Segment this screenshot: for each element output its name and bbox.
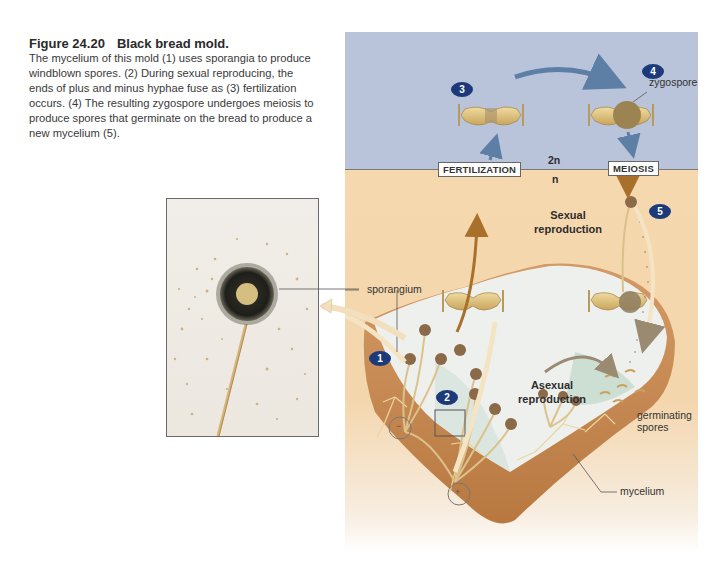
sporangium-label: sporangium <box>367 283 422 295</box>
germinating-label-line1: germinating <box>637 409 692 421</box>
sporangium-micrograph <box>166 198 319 437</box>
fertilization-label: FERTILIZATION <box>438 162 521 177</box>
germinating-spores-label: germinating spores <box>637 409 692 433</box>
sexual-label-line2: reproduction <box>533 222 603 236</box>
zygospore-art <box>589 92 653 129</box>
step-badge-3: 3 <box>451 82 473 97</box>
fertilization-to-zygospore-arrow <box>515 70 613 82</box>
photo-arrow-head <box>320 299 332 313</box>
zygospore-down-arrow <box>628 132 632 150</box>
sexual-reproduction-label: Sexual reproduction <box>533 208 603 236</box>
figure-heading: Figure 24.20Black bread mold. <box>29 36 319 51</box>
plus-strain-sign: + <box>455 487 460 497</box>
minus-strain-sign: − <box>396 421 401 431</box>
germinating-label-line2: spores <box>637 421 692 433</box>
fertilization-up-arrow <box>490 142 495 160</box>
meiosis-label: MEIOSIS <box>608 161 659 176</box>
zygospore-label: zygospore <box>649 76 697 88</box>
fertilization-gametangia <box>459 104 523 126</box>
step-badge-2: 2 <box>436 390 458 405</box>
figure-number: Figure 24.20 <box>29 36 105 51</box>
asexual-label-line1: Asexual <box>512 378 592 392</box>
step-badge-5: 5 <box>649 204 671 219</box>
diploid-label: 2n <box>548 153 560 167</box>
sexual-label-line1: Sexual <box>533 208 603 222</box>
life-cycle-diagram: 3 4 5 1 2 zygospore FERTILIZATION MEIOSI… <box>345 32 698 552</box>
asexual-label-line2: reproduction <box>512 392 592 406</box>
figure-title: Black bread mold. <box>117 36 229 51</box>
haploid-label: n <box>552 172 558 186</box>
sporangium-photo-illustration <box>167 199 318 436</box>
step-badge-1: 1 <box>369 351 391 366</box>
figure-caption-text: The mycelium of this mold (1) uses spora… <box>29 51 319 141</box>
mycelium-label: mycelium <box>620 485 664 497</box>
asexual-reproduction-label: Asexual reproduction <box>512 378 592 406</box>
figure-caption: Figure 24.20Black bread mold. The myceli… <box>29 36 319 141</box>
